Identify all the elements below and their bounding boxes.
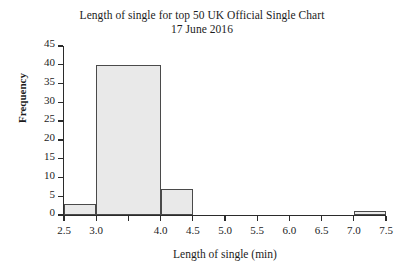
x-tick-label: 3.0: [89, 224, 103, 236]
x-tick-label: 6.0: [283, 224, 297, 236]
y-tick-label: 45: [27, 37, 55, 49]
histogram-bar: [96, 65, 160, 215]
y-tick: 25: [58, 120, 63, 121]
histogram-bar: [161, 189, 193, 215]
y-tick: 10: [58, 177, 63, 178]
x-tick: [289, 216, 290, 221]
histogram-chart: Length of single for top 50 UK Official …: [0, 0, 404, 275]
y-tick-label: 35: [27, 75, 55, 87]
y-tick-label: 10: [27, 169, 55, 181]
y-tick-label: 0: [27, 206, 55, 218]
y-tick-label: 20: [27, 131, 55, 143]
y-tick: 40: [58, 64, 63, 65]
x-tick-label: 5.5: [250, 224, 264, 236]
y-tick-label: 5: [27, 188, 55, 200]
x-tick: [96, 216, 97, 221]
x-tick: [321, 216, 322, 221]
histogram-bar: [354, 211, 386, 215]
y-tick-label: 15: [27, 150, 55, 162]
x-axis-title: Length of single (min): [64, 248, 386, 260]
x-tick-label: 7.5: [379, 224, 393, 236]
x-tick-label: 7.0: [347, 224, 361, 236]
x-tick: [224, 216, 225, 221]
x-tick-label: 4.0: [154, 224, 168, 236]
chart-title-line-1: Length of single for top 50 UK Official …: [0, 8, 404, 22]
x-tick: [257, 216, 258, 221]
chart-title: Length of single for top 50 UK Official …: [0, 8, 404, 36]
plot-area: 051015202530354045 2.53.04.04.55.05.56.0…: [64, 46, 386, 215]
y-tick: 45: [58, 45, 63, 46]
chart-title-line-2: 17 June 2016: [0, 22, 404, 36]
histogram-bar: [64, 204, 96, 215]
y-tick-label: 30: [27, 94, 55, 106]
x-tick: [353, 216, 354, 221]
x-tick: [385, 216, 386, 221]
y-tick: 30: [58, 102, 63, 103]
x-tick: [160, 216, 161, 221]
y-tick: 0: [58, 214, 63, 215]
x-tick: [63, 216, 64, 221]
x-tick-label: 4.5: [186, 224, 200, 236]
y-tick: 5: [58, 196, 63, 197]
x-tick: [128, 216, 129, 221]
y-tick: 20: [58, 139, 63, 140]
x-tick-label: 2.5: [57, 224, 71, 236]
x-tick-label: 5.0: [218, 224, 232, 236]
y-tick-label: 40: [27, 56, 55, 68]
bars-layer: [64, 46, 386, 215]
y-tick: 15: [58, 158, 63, 159]
x-tick: [192, 216, 193, 221]
y-tick-label: 25: [27, 112, 55, 124]
x-tick-label: 6.5: [315, 224, 329, 236]
y-tick: 35: [58, 83, 63, 84]
